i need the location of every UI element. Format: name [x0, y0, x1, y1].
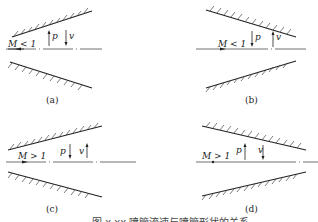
pressure-symbol-b: p: [255, 32, 261, 42]
velocity-symbol-d: v: [258, 145, 263, 155]
velocity-symbol-c: v: [79, 146, 84, 156]
panel-label-a: (a): [46, 95, 58, 105]
panel-c: M > 1 p v (c): [6, 123, 136, 214]
nozzle-diagram: M < 1 p v (a) M < 1 p v (b): [0, 0, 318, 222]
pressure-symbol-a: p: [52, 31, 58, 41]
panel-label-c: (c): [46, 204, 58, 214]
mach-label-b: M < 1: [217, 39, 246, 49]
velocity-symbol-b: v: [276, 32, 281, 42]
pressure-symbol-c: p: [60, 146, 66, 156]
panel-a: M < 1 p v (a): [6, 8, 102, 105]
mach-label-c: M > 1: [17, 151, 46, 161]
velocity-symbol-a: v: [69, 31, 74, 41]
panel-b: M < 1 p v (b): [196, 6, 306, 105]
mach-label-d: M > 1: [201, 151, 230, 161]
mach-label-a: M < 1: [7, 39, 36, 49]
panel-label-d: (d): [245, 204, 258, 214]
panel-label-b: (b): [245, 95, 258, 105]
panel-d: M > 1 p v (d): [196, 122, 318, 214]
pressure-symbol-d: p: [236, 145, 242, 155]
figure-caption: 图 x.xx 喷管流速与喷管形状的关系: [92, 216, 249, 222]
